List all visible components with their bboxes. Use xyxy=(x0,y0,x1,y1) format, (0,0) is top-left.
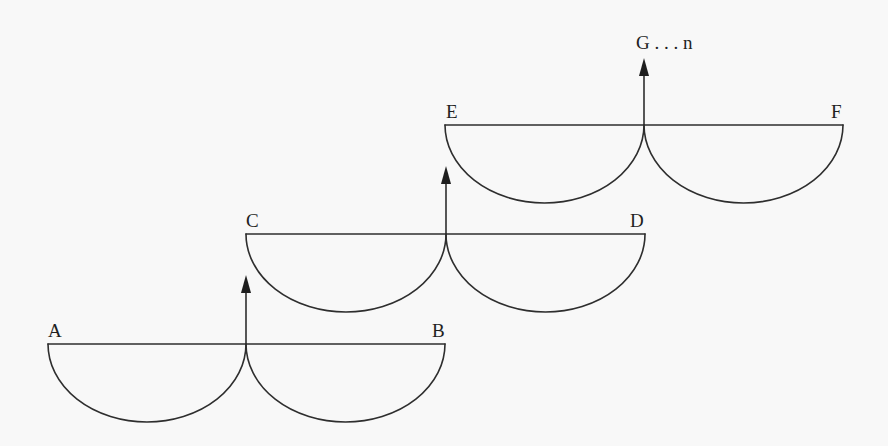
right-arc-cd xyxy=(446,234,645,312)
arrow-up-icon xyxy=(241,275,251,293)
label-a: A xyxy=(48,321,62,340)
left-arc-ef xyxy=(445,125,644,203)
label-g-to-n: G . . . n xyxy=(636,33,692,52)
label-d: D xyxy=(630,211,644,230)
label-f: F xyxy=(831,102,842,121)
right-arc-ef xyxy=(644,125,843,203)
label-b: B xyxy=(432,321,445,340)
unit-ef xyxy=(445,58,843,203)
label-c: C xyxy=(246,211,259,230)
left-arc-cd xyxy=(246,234,446,312)
arrow-up-icon xyxy=(441,166,451,184)
unit-ab xyxy=(48,275,445,422)
arrow-up-icon xyxy=(639,58,649,76)
label-e: E xyxy=(446,102,458,121)
right-arc-ab xyxy=(246,344,445,422)
diagram-canvas: A B C D E F G . . . n xyxy=(0,0,888,446)
left-arc-ab xyxy=(48,344,246,422)
unit-cd xyxy=(246,166,645,312)
chain-diagram xyxy=(0,0,888,446)
